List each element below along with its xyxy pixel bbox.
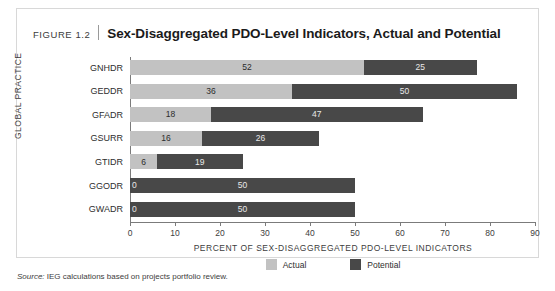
category-label-ggodr: GGODR [57, 181, 123, 191]
bar-segment-potential: 47 [211, 107, 423, 122]
x-tick-mark [400, 222, 401, 226]
legend-label: Potential [367, 260, 400, 270]
x-tick-label: 50 [350, 228, 359, 238]
legend-swatch-actual [266, 259, 277, 270]
x-tick-label: 10 [170, 228, 179, 238]
bar-value-label-actual: 6 [141, 158, 146, 167]
x-tick-label: 70 [440, 228, 449, 238]
source-text: IEG calculations based on projects portf… [45, 272, 228, 281]
x-tick-label: 90 [530, 228, 539, 238]
category-label-gnhdr: GNHDR [57, 63, 123, 73]
bar-value-label-potential: 25 [416, 63, 425, 72]
figure-number: FIGURE 1.2 [33, 29, 90, 40]
bar-value-label-actual: 52 [242, 63, 251, 72]
category-label-gsurr: GSURR [57, 133, 123, 143]
legend-swatch-potential [350, 259, 361, 270]
category-label-gfadr: GFADR [57, 110, 123, 120]
x-axis-title: PERCENT OF SEX-DISAGGREGATED PDO-LEVEL I… [130, 243, 536, 253]
category-label-gtidr: GTIDR [57, 157, 123, 167]
bar-value-label-potential: 50 [238, 181, 247, 190]
bar-segment-potential: 500 [130, 178, 355, 193]
x-tick-mark [220, 222, 221, 226]
figure-header: FIGURE 1.2 Sex-Disaggregated PDO-Level I… [33, 23, 501, 41]
x-tick-label: 60 [395, 228, 404, 238]
bar-segment-actual: 18 [130, 107, 211, 122]
x-tick-mark [535, 222, 536, 226]
x-tick-mark [265, 222, 266, 226]
x-tick-mark [310, 222, 311, 226]
x-tick-mark [490, 222, 491, 226]
x-tick-mark [130, 222, 131, 226]
bar-segment-potential: 500 [130, 202, 355, 217]
bar-segment-potential: 25 [364, 60, 477, 75]
chart-legend: ActualPotential [130, 259, 536, 270]
bar-segment-potential: 26 [202, 131, 319, 146]
bar-value-label-potential: 19 [195, 158, 204, 167]
bar-value-label-actual: 0 [132, 205, 137, 214]
bar-value-label-potential: 26 [256, 134, 265, 143]
x-axis-line [130, 222, 536, 223]
legend-item-potential: Potential [350, 259, 400, 270]
x-tick-mark [175, 222, 176, 226]
source-note: Source: IEG calculations based on projec… [17, 272, 228, 281]
figure-card: FIGURE 1.2 Sex-Disaggregated PDO-Level I… [16, 8, 539, 258]
bar-segment-actual: 36 [130, 84, 292, 99]
figure-title-divider [98, 25, 99, 40]
bar-segment-actual: 16 [130, 131, 202, 146]
x-tick-label: 0 [128, 228, 133, 238]
bar-value-label-actual: 36 [206, 87, 215, 96]
bar-value-label-actual: 0 [132, 181, 137, 190]
figure-title: Sex-Disaggregated PDO-Level Indicators, … [107, 26, 500, 41]
bar-value-label-actual: 18 [166, 110, 175, 119]
x-tick-label: 20 [215, 228, 224, 238]
bar-segment-potential: 50 [292, 84, 517, 99]
bar-value-label-actual: 16 [161, 134, 170, 143]
source-label: Source: [17, 272, 45, 281]
x-tick-label: 40 [305, 228, 314, 238]
bar-value-label-potential: 50 [400, 87, 409, 96]
x-tick-label: 30 [260, 228, 269, 238]
bar-value-label-potential: 50 [238, 205, 247, 214]
category-label-gwadr: GWADR [57, 204, 123, 214]
legend-label: Actual [283, 260, 307, 270]
category-label-geddr: GEDDR [57, 86, 123, 96]
y-axis-title: GLOBAL PRACTICE [13, 52, 23, 139]
x-tick-mark [445, 222, 446, 226]
bar-segment-actual: 6 [130, 154, 157, 169]
bar-value-label-potential: 47 [312, 110, 321, 119]
x-tick-mark [355, 222, 356, 226]
x-tick-label: 80 [485, 228, 494, 238]
bar-segment-actual: 52 [130, 60, 364, 75]
bar-segment-potential: 19 [157, 154, 243, 169]
legend-item-actual: Actual [266, 259, 307, 270]
